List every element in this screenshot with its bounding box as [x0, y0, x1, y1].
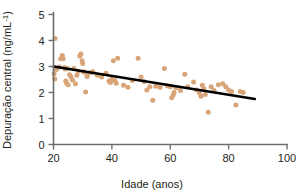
data-point — [80, 61, 85, 66]
data-point — [114, 81, 119, 86]
x-tick-label: 80 — [223, 152, 235, 164]
data-point — [73, 81, 78, 86]
data-point — [136, 56, 141, 61]
chart-canvas: 20406080100 012345 Idade (anos) Depuraçã… — [0, 0, 303, 194]
data-point — [216, 82, 221, 87]
data-point — [182, 72, 187, 77]
data-point — [198, 94, 203, 99]
data-point — [147, 84, 152, 89]
y-tick-label: 3 — [38, 61, 44, 73]
data-point — [115, 56, 120, 61]
y-axis-title-main: Depuração central (ng/mL — [1, 22, 13, 149]
y-tick-label: 1 — [38, 113, 44, 125]
data-point — [178, 88, 183, 93]
data-point — [78, 52, 83, 57]
data-point — [61, 56, 66, 61]
data-point — [66, 82, 71, 87]
axes-layer — [54, 13, 288, 145]
data-point — [229, 89, 234, 94]
y-axis-title-close: ) — [1, 11, 13, 15]
data-point — [172, 90, 177, 95]
data-points-layer — [52, 36, 246, 115]
scatter-plot-figure: 20406080100 012345 Idade (anos) Depuraçã… — [0, 0, 303, 194]
x-axis-title: Idade (anos) — [121, 178, 183, 190]
data-point — [233, 102, 238, 107]
y-tick-label: 2 — [38, 87, 44, 99]
data-point — [125, 85, 130, 90]
data-point — [111, 58, 116, 63]
data-point — [203, 92, 208, 97]
x-tick-label: 20 — [47, 152, 59, 164]
data-point — [241, 90, 246, 95]
data-point — [150, 98, 155, 103]
data-point — [121, 83, 126, 88]
data-point — [191, 80, 196, 85]
data-point — [153, 84, 158, 89]
data-point — [139, 74, 144, 79]
data-point — [83, 89, 88, 94]
data-point — [162, 66, 167, 71]
y-tick-label: 0 — [38, 139, 44, 151]
y-axis-title: Depuração central (ng/mL-1) — [1, 11, 13, 149]
data-point — [158, 85, 163, 90]
x-tick-label: 40 — [106, 152, 118, 164]
y-tick-label: 5 — [38, 9, 44, 21]
x-axis-ticks: 20406080100 — [47, 145, 296, 164]
data-point — [206, 110, 211, 115]
x-tick-label: 100 — [278, 152, 296, 164]
y-tick-label: 4 — [38, 35, 44, 47]
x-tick-label: 60 — [164, 152, 176, 164]
y-axis-ticks: 012345 — [38, 9, 53, 151]
